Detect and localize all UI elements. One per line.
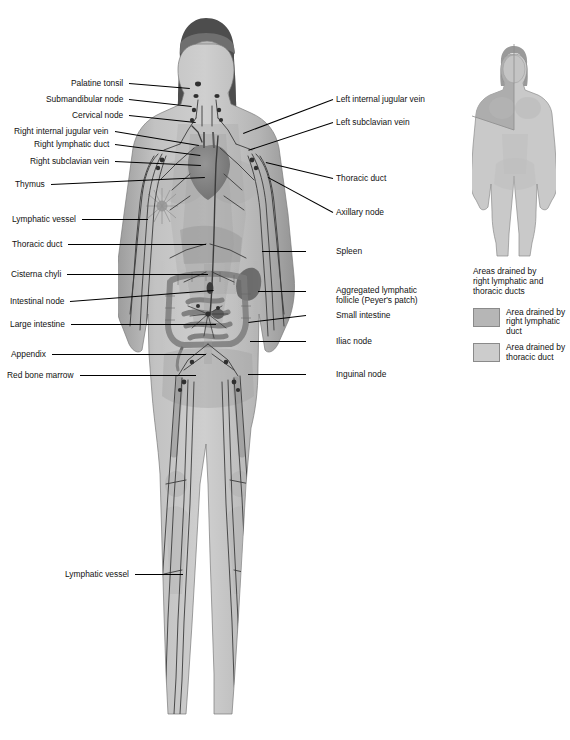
label-cervical-node: Cervical node xyxy=(72,111,123,121)
leader-iliac-node xyxy=(250,341,306,342)
label-axillary-node: Axillary node xyxy=(336,208,384,218)
legend: Areas drained byright lymphatic andthora… xyxy=(473,266,568,369)
label-spleen: Spleen xyxy=(336,247,362,257)
label-aggregated-lymphatic-follicle-peyer-s-patch: Aggregated lymphaticfollicle (Peyer's pa… xyxy=(336,286,420,305)
leader-inguinal-node xyxy=(248,374,306,375)
iliac-node xyxy=(190,360,195,365)
leader-lymphatic-vessel xyxy=(82,219,148,220)
legend-item-right-lymphatic-duct: Area drained byright lymphatic duct xyxy=(473,308,568,337)
label-thoracic-duct: Thoracic duct xyxy=(12,240,62,250)
leader-appendix xyxy=(52,354,206,355)
label-right-internal-jugular-vein: Right internal jugular vein xyxy=(14,127,109,137)
legend-label-thoracic-duct: Area drained bythoracic duct xyxy=(506,343,565,363)
label-submandibular-node: Submandibular node xyxy=(46,95,123,105)
submandibular-node xyxy=(193,94,198,98)
label-cisterna-chyli: Cisterna chyli xyxy=(11,270,61,280)
label-iliac-node: Iliac node xyxy=(336,337,372,347)
cisterna-chyli-shape xyxy=(207,282,214,294)
label-lymphatic-vessel: Lymphatic vessel xyxy=(65,570,129,580)
leader-thoracic-duct xyxy=(68,244,206,245)
label-intestinal-node: Intestinal node xyxy=(10,297,64,307)
legend-caption: Areas drained byright lymphatic andthora… xyxy=(473,266,568,297)
leader-red-bone-marrow xyxy=(80,375,196,376)
label-palatine-tonsil: Palatine tonsil xyxy=(71,79,123,89)
leader-large-intestine xyxy=(71,324,216,325)
label-left-internal-jugular-vein: Left internal jugular vein xyxy=(336,95,425,105)
legend-swatch-right-lymphatic-duct xyxy=(473,308,500,327)
label-left-subclavian-vein: Left subclavian vein xyxy=(336,118,410,128)
palatine-tonsil-node xyxy=(195,82,201,87)
label-red-bone-marrow: Red bone marrow xyxy=(7,371,74,381)
label-appendix: Appendix xyxy=(11,350,46,360)
leader-cisterna-chyli xyxy=(67,274,208,275)
label-small-intestine: Small intestine xyxy=(336,311,390,321)
leader-lymphatic-vessel xyxy=(135,574,183,575)
label-right-subclavian-vein: Right subclavian vein xyxy=(30,157,109,167)
label-thymus: Thymus xyxy=(15,180,45,190)
inguinal-node xyxy=(182,380,187,385)
drainage-area-silhouette xyxy=(472,44,556,260)
legend-label-right-lymphatic-duct: Area drained byright lymphatic duct xyxy=(506,308,568,337)
leader-spleen xyxy=(262,251,306,252)
main-body-figure xyxy=(118,14,308,728)
label-large-intestine: Large intestine xyxy=(10,320,65,330)
legend-item-thoracic-duct: Area drained bythoracic duct xyxy=(473,343,568,363)
label-right-lymphatic-duct: Right lymphatic duct xyxy=(34,140,109,150)
label-inguinal-node: Inguinal node xyxy=(336,370,386,380)
axillary-node xyxy=(160,158,165,163)
leader-aggregated-lymphatic-follicle-peyer-s-patch xyxy=(258,291,306,292)
label-lymphatic-vessel: Lymphatic vessel xyxy=(12,215,76,225)
legend-swatch-thoracic-duct xyxy=(473,343,500,362)
lymphatic-system-diagram: Areas drained byright lymphatic andthora… xyxy=(0,0,570,740)
label-thoracic-duct: Thoracic duct xyxy=(336,174,386,184)
intestinal-node xyxy=(205,311,210,316)
cervical-node xyxy=(192,108,196,112)
